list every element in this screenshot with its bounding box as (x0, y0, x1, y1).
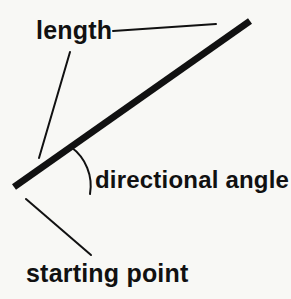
angle-arc (71, 147, 91, 194)
main-vector-line (14, 21, 250, 187)
label-directional-angle: directional angle (95, 168, 289, 192)
diagram-canvas (0, 0, 291, 299)
label-starting-point: starting point (26, 261, 189, 286)
length-leader-horizontal-line (113, 24, 216, 31)
starting-point-leader-line (26, 199, 91, 255)
vector-diagram: length directional angle starting point (0, 0, 291, 299)
length-leader-diagonal-line (39, 52, 70, 158)
label-length: length (36, 18, 112, 43)
